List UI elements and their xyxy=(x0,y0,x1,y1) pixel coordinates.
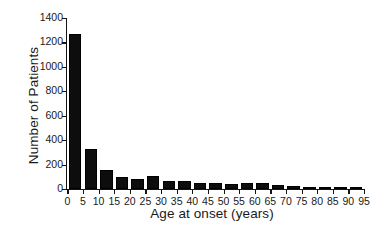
x-tick-mark xyxy=(286,189,287,194)
bar xyxy=(303,187,315,189)
y-axis-title: Number of Patients xyxy=(26,16,41,196)
bar xyxy=(163,181,175,189)
bar xyxy=(147,176,159,189)
x-tick-mark xyxy=(302,189,303,194)
x-tick-mark xyxy=(130,189,131,194)
y-tick-label: 1000 xyxy=(40,60,63,72)
bar xyxy=(178,181,190,189)
x-tick-mark xyxy=(208,189,209,194)
x-axis-line xyxy=(66,189,364,190)
histogram-figure: Number of Patients Age at onset (years) … xyxy=(0,0,379,237)
y-tick-label: 200 xyxy=(45,158,63,170)
y-tick-label: 0 xyxy=(57,182,63,194)
x-tick-mark xyxy=(348,189,349,194)
x-tick-label: 95 xyxy=(353,195,375,207)
x-tick-mark xyxy=(364,189,365,194)
x-tick-mark xyxy=(317,189,318,194)
x-tick-mark xyxy=(99,189,100,194)
bar xyxy=(319,187,331,189)
x-tick-mark xyxy=(114,189,115,194)
y-tick-label: 600 xyxy=(45,109,63,121)
bar xyxy=(209,183,221,189)
x-tick-mark xyxy=(270,189,271,194)
bar xyxy=(131,179,143,189)
bar xyxy=(100,170,112,189)
x-tick-mark xyxy=(145,189,146,194)
x-axis-title: Age at onset (years) xyxy=(62,206,362,221)
bar xyxy=(225,184,237,189)
bar xyxy=(85,149,97,189)
x-tick-mark xyxy=(192,189,193,194)
x-tick-mark xyxy=(161,189,162,194)
x-tick-mark xyxy=(333,189,334,194)
y-tick-label: 800 xyxy=(45,84,63,96)
y-tick-label: 1200 xyxy=(40,35,63,47)
bar xyxy=(350,187,362,189)
y-tick-label: 1400 xyxy=(40,11,63,23)
bar xyxy=(287,186,299,189)
x-tick-mark xyxy=(83,189,84,194)
bar xyxy=(272,185,284,189)
bar-series xyxy=(67,18,364,189)
bar xyxy=(116,177,128,189)
bar xyxy=(194,183,206,189)
x-tick-mark xyxy=(255,189,256,194)
y-tick-label: 400 xyxy=(45,133,63,145)
bar xyxy=(334,187,346,189)
bar xyxy=(69,34,81,189)
x-tick-mark xyxy=(224,189,225,194)
bar xyxy=(256,183,268,189)
x-tick-mark xyxy=(67,189,68,194)
plot-area: 0200400600800100012001400 05101520253035… xyxy=(66,18,364,189)
bar xyxy=(241,183,253,189)
x-tick-mark xyxy=(239,189,240,194)
x-tick-mark xyxy=(177,189,178,194)
